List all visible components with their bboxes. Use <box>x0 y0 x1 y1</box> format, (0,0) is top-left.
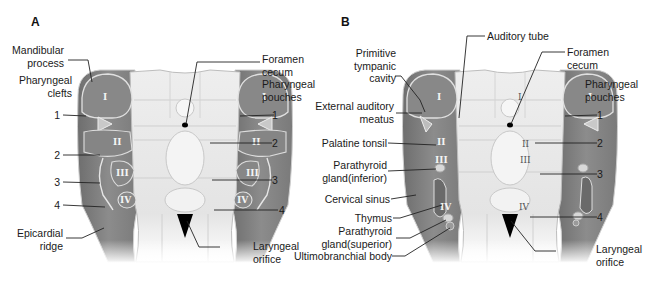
panel-b-letter: B <box>341 15 350 29</box>
label-palatine-tonsil: Palatine tonsil <box>322 137 387 150</box>
label-pharyngeal-clefts: Pharyngeal clefts <box>19 74 72 99</box>
label-cervical-sinus: Cervical sinus <box>325 193 390 206</box>
label-b-pharyngeal-pouches: Pharyngeal pouches <box>585 78 638 103</box>
label-external-auditory-meatus: External auditory meatus <box>315 100 394 125</box>
svg-text:III: III <box>520 155 531 165</box>
label-a-right-1: 1 <box>272 109 278 122</box>
label-b-right-3: 3 <box>597 168 603 181</box>
svg-text:II: II <box>252 137 260 147</box>
label-b-right-4: 4 <box>597 211 603 224</box>
label-epicardial-ridge: Epicardial ridge <box>17 227 63 252</box>
svg-text:I: I <box>437 92 441 102</box>
svg-text:I: I <box>103 92 107 102</box>
label-b-laryngeal-orifice: Laryngeal orifice <box>596 243 642 268</box>
pharyngeal-arches-figure: I I II II III III IV IV <box>0 0 650 282</box>
label-b-foramen-cecum: Foramen cecum <box>567 46 609 71</box>
svg-text:II: II <box>113 137 121 147</box>
label-parathyroid-superior: Parathyroid gland(superior) <box>321 225 392 250</box>
svg-text:IV: IV <box>440 202 452 212</box>
svg-text:III: III <box>435 155 448 165</box>
label-a-left-3: 3 <box>54 176 60 189</box>
label-a-left-4: 4 <box>54 199 60 212</box>
label-b-right-2: 2 <box>597 137 603 150</box>
label-a-pharyngeal-pouches: Pharyngeal pouches <box>262 78 315 103</box>
svg-text:II: II <box>437 137 445 147</box>
label-ultimobranchial-body: Ultimobranchial body <box>294 250 392 263</box>
panel-a-letter: A <box>31 15 40 29</box>
label-a-left-1: 1 <box>54 109 60 122</box>
svg-text:II: II <box>522 139 530 149</box>
label-auditory-tube: Auditory tube <box>487 30 549 43</box>
label-parathyroid-inferior: Parathyroid gland(inferior) <box>322 159 387 184</box>
svg-text:III: III <box>246 168 259 178</box>
svg-text:III: III <box>116 168 129 178</box>
label-thymus: Thymus <box>355 212 392 225</box>
label-mandibular-process: Mandibular process <box>12 44 64 69</box>
label-b-right-1: 1 <box>597 109 603 122</box>
svg-text:IV: IV <box>120 195 132 205</box>
label-a-right-4: 4 <box>279 204 285 217</box>
label-primitive-tympanic-cavity: Primitive tympanic cavity <box>354 47 396 85</box>
label-a-left-2: 2 <box>54 149 60 162</box>
svg-text:IV: IV <box>237 195 249 205</box>
label-a-right-2: 2 <box>272 137 278 150</box>
label-a-laryngeal-orifice: Laryngeal orifice <box>253 240 299 265</box>
label-a-foramen-cecum: Foramen cecum <box>262 53 304 78</box>
svg-text:IV: IV <box>519 202 530 212</box>
label-a-right-3: 3 <box>272 174 278 187</box>
